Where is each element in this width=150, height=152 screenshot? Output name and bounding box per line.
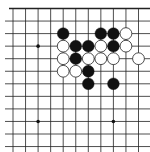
white-stone[interactable] [82,53,94,65]
black-stone[interactable] [70,53,82,65]
white-stone[interactable] [108,53,120,65]
white-stone[interactable] [95,53,107,65]
black-stone[interactable] [108,78,120,90]
black-stone[interactable] [82,40,94,52]
black-stone[interactable] [95,28,107,40]
white-stone[interactable] [57,40,69,52]
white-stone[interactable] [57,65,69,77]
star-point [36,44,40,48]
white-stone[interactable] [95,40,107,52]
black-stone[interactable] [108,28,120,40]
black-stone[interactable] [82,65,94,77]
black-stone[interactable] [108,40,120,52]
white-stone[interactable] [120,28,132,40]
white-stone[interactable] [57,53,69,65]
white-stone[interactable] [133,53,145,65]
black-stone[interactable] [57,28,69,40]
white-stone[interactable] [70,65,82,77]
black-stone[interactable] [82,78,94,90]
go-board[interactable] [0,0,150,152]
white-stone[interactable] [120,40,132,52]
star-point [36,120,40,124]
black-stone[interactable] [70,40,82,52]
star-point [112,120,116,124]
